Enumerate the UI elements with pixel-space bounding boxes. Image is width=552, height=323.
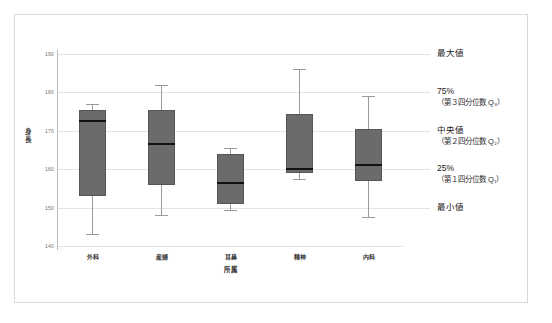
box-plot-内科 bbox=[355, 15, 382, 246]
annotation-main: 25% bbox=[437, 163, 503, 174]
median-line bbox=[148, 143, 175, 145]
x-tick-精神: 精神 bbox=[275, 252, 325, 261]
box-plot-精神 bbox=[286, 15, 313, 246]
figure-frame: 140150160170180190 身長 外科産婦耳鼻精神内科 所属 最大値7… bbox=[14, 14, 528, 303]
gridline-140 bbox=[58, 246, 403, 247]
y-tick-150: 150 bbox=[32, 205, 54, 211]
min-cap bbox=[293, 179, 306, 180]
lower-whisker bbox=[161, 185, 162, 216]
min-cap bbox=[224, 210, 237, 211]
y-axis-tick-labels: 140150160170180190 bbox=[26, 15, 54, 323]
annotation-sub: （第２四分位数 Q₂） bbox=[437, 136, 504, 147]
upper-whisker bbox=[368, 96, 369, 129]
x-tick-内科: 内科 bbox=[344, 252, 394, 261]
median-line bbox=[355, 164, 382, 166]
annotation-sub: （第１四分位数 Q₁） bbox=[437, 174, 503, 185]
annotation-main: 最小値 bbox=[437, 202, 464, 213]
y-tick-170: 170 bbox=[32, 128, 54, 134]
iqr-box bbox=[286, 114, 313, 174]
annotation-0: 最大値 bbox=[437, 48, 464, 59]
lower-whisker bbox=[92, 196, 93, 234]
max-cap bbox=[362, 96, 375, 97]
x-tick-産婦: 産婦 bbox=[137, 252, 187, 261]
min-cap bbox=[155, 215, 168, 216]
iqr-box bbox=[148, 110, 175, 185]
annotation-main: 最大値 bbox=[437, 48, 464, 59]
box-plot-産婦 bbox=[148, 15, 175, 246]
y-tick-140: 140 bbox=[32, 243, 54, 249]
box-plot-耳鼻 bbox=[217, 15, 244, 246]
median-line bbox=[286, 168, 313, 170]
annotation-sub: （第３四分位数 Q₃） bbox=[437, 97, 504, 108]
max-cap bbox=[155, 85, 168, 86]
max-cap bbox=[224, 148, 237, 149]
y-axis-title: 身長 bbox=[22, 128, 34, 143]
x-tick-耳鼻: 耳鼻 bbox=[206, 252, 256, 261]
y-tick-190: 190 bbox=[32, 51, 54, 57]
y-tick-160: 160 bbox=[32, 166, 54, 172]
annotation-1: 75%（第３四分位数 Q₃） bbox=[437, 86, 504, 108]
box-plot-外科 bbox=[79, 15, 106, 246]
max-cap bbox=[293, 69, 306, 70]
iqr-box bbox=[79, 110, 106, 196]
median-line bbox=[217, 182, 244, 184]
annotation-3: 25%（第１四分位数 Q₁） bbox=[437, 163, 503, 185]
annotation-main: 中央値 bbox=[437, 125, 504, 136]
box-plot-figure: 140150160170180190 身長 外科産婦耳鼻精神内科 所属 最大値7… bbox=[0, 0, 552, 323]
min-cap bbox=[362, 217, 375, 218]
annotation-4: 最小値 bbox=[437, 202, 464, 213]
y-tick-180: 180 bbox=[32, 89, 54, 95]
upper-whisker bbox=[161, 85, 162, 110]
upper-whisker bbox=[299, 69, 300, 113]
x-tick-外科: 外科 bbox=[68, 252, 118, 261]
annotation-main: 75% bbox=[437, 86, 504, 97]
median-line bbox=[79, 120, 106, 122]
max-cap bbox=[86, 104, 99, 105]
x-axis-title: 所属 bbox=[58, 264, 403, 274]
min-cap bbox=[86, 234, 99, 235]
iqr-box bbox=[217, 154, 244, 204]
annotation-2: 中央値（第２四分位数 Q₂） bbox=[437, 125, 504, 147]
lower-whisker bbox=[368, 181, 369, 217]
iqr-box bbox=[355, 129, 382, 181]
